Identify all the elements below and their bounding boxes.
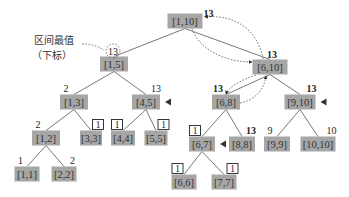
node-range-label: [6,6] (174, 177, 194, 188)
tree-node: [6,8]13 (212, 83, 240, 110)
node-range-label: [7,7] (214, 177, 234, 188)
node-max-index-value: 1 (175, 164, 180, 174)
tree-node: [9,10]13 (285, 83, 327, 110)
tree-edge (277, 110, 300, 137)
tree-node: [9,9]9 (264, 125, 290, 152)
node-range-label: [1,3] (64, 97, 84, 108)
node-max-index-value: 13 (151, 83, 161, 94)
tree-node: [4,5]13 (132, 83, 171, 110)
tree-edge (46, 146, 64, 167)
tree-edge (226, 75, 270, 95)
segment-tree-diagram: [1,10]13[1,5]13[6,10]13[1,3]2[4,5]13[6,8… (0, 0, 349, 197)
tree-edge (146, 110, 156, 131)
tree-node: [6,6]1 (172, 164, 197, 190)
node-max-index-value: 1 (96, 120, 101, 130)
triangle-pointer-icon (220, 141, 226, 148)
node-max-index-value: 13 (108, 46, 118, 57)
annotation-line1: 区间最值 (34, 34, 74, 46)
node-range-label: [6,8] (216, 97, 236, 108)
node-range-label: [10,10] (303, 139, 334, 150)
node-range-label: [4,5] (136, 97, 156, 108)
node-range-label: [1,1] (17, 169, 37, 180)
node-max-index-value: 1 (161, 120, 166, 130)
tree-edge (74, 110, 91, 131)
tree-node: [1,2]2 (32, 119, 60, 146)
tree-edge (226, 110, 242, 137)
tree-node: [1,1]1 (15, 155, 40, 182)
tree-edge (202, 152, 224, 175)
annotation-line2: （下标） (32, 50, 72, 61)
node-max-index-value: 13 (213, 83, 223, 94)
tree-edge (46, 110, 74, 131)
tree-node: [1,5]13 (100, 46, 128, 72)
tree-node: [4,4]1 (111, 120, 135, 146)
tree-node: [1,3]2 (60, 83, 88, 110)
node-max-index-value: 1 (115, 120, 120, 130)
node-max-index-value: 2 (64, 83, 69, 94)
tree-node: [5,5]1 (145, 120, 170, 146)
tree-edge (185, 29, 270, 60)
node-range-label: [4,4] (113, 133, 133, 144)
node-max-index-value: 13 (267, 49, 277, 60)
node-range-label: [6,7] (192, 139, 212, 150)
node-max-index-value: 1 (230, 164, 235, 174)
node-range-label: [1,10] (172, 16, 197, 27)
node-max-index-value: 2 (70, 155, 75, 166)
tree-edge (27, 146, 46, 167)
tree-edge (74, 72, 114, 95)
node-range-label: [9,10] (287, 97, 312, 108)
node-max-index-value: 9 (268, 125, 273, 136)
tree-edge (114, 29, 185, 57)
node-max-index-value: 13 (246, 125, 256, 136)
node-range-label: [5,5] (146, 133, 166, 144)
tree-node: [8,8]13 (229, 125, 256, 152)
tree-edge (270, 75, 300, 95)
node-range-label: [9,9] (267, 139, 287, 150)
triangle-pointer-icon (321, 99, 327, 106)
tree-edge (202, 110, 226, 137)
node-range-label: [1,5] (104, 59, 124, 70)
node-max-index-value: 1 (18, 155, 23, 166)
tree-node: [10,10]10 (301, 125, 337, 152)
tree-node: [1,10]13 (168, 8, 214, 29)
node-max-index-value: 2 (36, 119, 41, 130)
tree-node: [3,3]1 (80, 120, 104, 146)
tree-edge (123, 110, 146, 131)
tree-node: [7,7]1 (212, 164, 239, 190)
node-range-label: [3,3] (81, 133, 101, 144)
query-arrow-2 (226, 75, 256, 94)
tree-edge (114, 72, 146, 95)
tree-node: [6,7]1 (189, 126, 226, 152)
tree-node: [6,10]13 (253, 49, 288, 75)
node-max-index-value: 10 (327, 125, 337, 136)
tree-node: [2,2]2 (52, 155, 77, 182)
node-max-index-value: 13 (307, 83, 317, 94)
node-max-index-value: 1 (193, 126, 198, 136)
node-max-index-value: 13 (204, 8, 214, 19)
node-range-label: [8,8] (232, 139, 252, 150)
tree-edge (300, 110, 318, 137)
tree-edge (184, 152, 202, 175)
triangle-pointer-icon (165, 99, 171, 106)
node-range-label: [1,2] (36, 133, 56, 144)
annotation-leader-line (82, 44, 104, 50)
node-range-label: [6,10] (257, 62, 282, 73)
node-range-label: [2,2] (54, 169, 74, 180)
